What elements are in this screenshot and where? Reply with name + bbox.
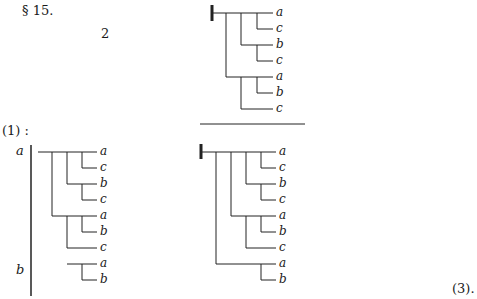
top-tree-leaf: b [276, 86, 284, 98]
top-tree-leaf: b [276, 38, 284, 50]
right-tree-leaf: b [279, 177, 287, 189]
left-tree [31, 145, 97, 296]
top-tree [212, 5, 273, 109]
top-tree-leaf: c [276, 22, 283, 34]
tree-diagrams [0, 0, 477, 299]
right-tree-leaf: a [279, 145, 286, 157]
right-tree [201, 144, 276, 280]
top-tree-leaf: c [276, 102, 283, 114]
left-tree-leaf: a [100, 257, 107, 269]
left-tree-leaf: a [100, 209, 107, 221]
left-tree-leaf: c [100, 193, 107, 205]
top-tree-leaf: a [276, 6, 283, 18]
left-tree-leaf: a [100, 145, 107, 157]
left-tree-leaf: b [100, 177, 108, 189]
right-tree-leaf: a [279, 209, 286, 221]
right-tree-leaf: b [279, 225, 287, 237]
top-tree-leaf: c [276, 54, 283, 66]
left-tree-leaf: c [100, 161, 107, 173]
right-tree-leaf: c [279, 193, 286, 205]
top-tree-leaf: a [276, 70, 283, 82]
left-tree-leaf: c [100, 241, 107, 253]
left-tree-leaf: b [100, 273, 108, 285]
right-tree-leaf: c [279, 161, 286, 173]
left-tree-leaf: b [100, 225, 108, 237]
right-tree-leaf: b [279, 273, 287, 285]
right-tree-leaf: a [279, 257, 286, 269]
right-tree-leaf: c [279, 241, 286, 253]
